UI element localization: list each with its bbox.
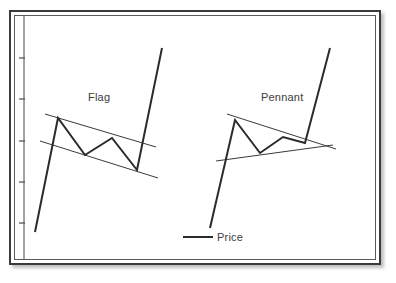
flag-upper-channel-line bbox=[45, 114, 156, 147]
pennant-pattern-label: Pennant bbox=[261, 91, 303, 103]
y-axis bbox=[19, 16, 25, 259]
legend-entry-label: Price bbox=[217, 231, 243, 243]
pennant-pattern-group bbox=[210, 48, 336, 228]
pennant-price-series bbox=[210, 48, 330, 228]
flag-price-series bbox=[35, 48, 162, 232]
figure-root: Flag Pennant Price bbox=[0, 0, 396, 283]
chart-canvas bbox=[0, 0, 396, 283]
flag-pattern-label: Flag bbox=[88, 91, 110, 103]
pennant-lower-trendline bbox=[216, 145, 333, 161]
flag-pattern-group bbox=[35, 48, 162, 232]
